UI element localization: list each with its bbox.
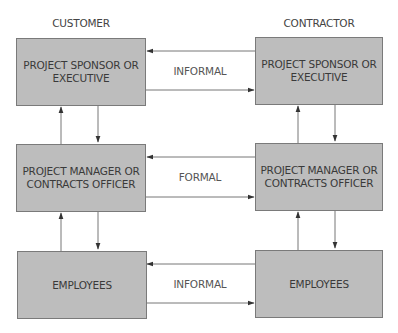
contractor-manager-box: PROJECT MANAGER OR CONTRACTS OFFICER [255, 143, 383, 211]
box-label-line: EXECUTIVE [23, 72, 138, 85]
customer-employees-box: EMPLOYEES [17, 251, 147, 319]
contractor-column-title: CONTRACTOR [255, 17, 383, 29]
customer-column-title: CUSTOMER [16, 17, 146, 29]
flow-label-sponsor: INFORMAL [145, 65, 255, 77]
box-label-line: PROJECT MANAGER OR [260, 164, 377, 177]
box-label-line: CONTRACTS OFFICER [22, 178, 139, 191]
box-label-line: EMPLOYEES [52, 279, 112, 292]
flow-label-employees: INFORMAL [145, 278, 255, 290]
box-label-line: CONTRACTS OFFICER [260, 177, 377, 190]
box-label-line: PROJECT SPONSOR OR [23, 59, 138, 72]
box-label-line: PROJECT SPONSOR OR [261, 58, 376, 71]
box-label-line: EMPLOYEES [289, 278, 349, 291]
contractor-sponsor-box: PROJECT SPONSOR OR EXECUTIVE [255, 37, 383, 105]
contractor-employees-box: EMPLOYEES [255, 250, 383, 318]
box-label-line: PROJECT MANAGER OR [22, 165, 139, 178]
flow-label-manager: FORMAL [145, 171, 255, 183]
customer-sponsor-box: PROJECT SPONSOR OR EXECUTIVE [16, 38, 146, 106]
box-label-line: EXECUTIVE [261, 71, 376, 84]
customer-manager-box: PROJECT MANAGER OR CONTRACTS OFFICER [16, 144, 146, 212]
